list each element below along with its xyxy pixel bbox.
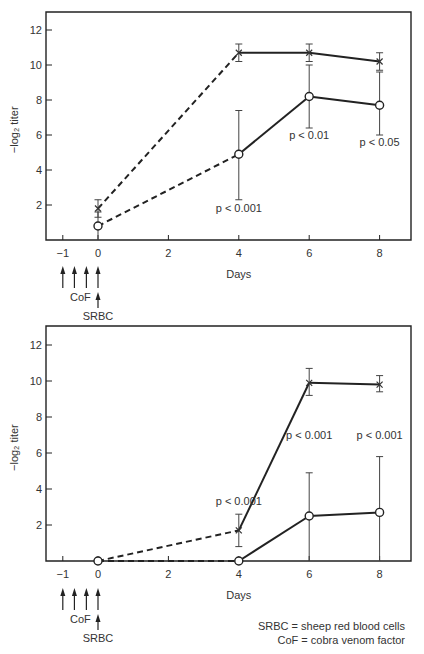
cof-label: CoF [70,613,91,625]
y-tick-label: 6 [36,447,42,459]
y-tick-label: 6 [36,129,42,141]
x-tick-label: 0 [95,247,101,259]
legend-cof: CoF = cobra venom factor [278,634,406,646]
circle-marker-icon [94,222,102,230]
series-line-cof [309,97,379,106]
cof-arrow-icon [96,266,101,274]
x-tick-label: −1 [57,247,70,259]
x-tick-label: 4 [236,568,242,580]
series-line-cof [239,516,309,561]
y-tick-label: 12 [30,339,42,351]
cof-arrow-icon [84,588,89,596]
circle-marker-icon [305,512,313,520]
srbc-arrow-icon [96,292,101,300]
y-tick-label: 10 [30,59,42,71]
circle-marker-icon [235,557,243,565]
cof-arrow-icon [84,266,89,274]
cof-label: CoF [70,291,91,303]
y-axis-label: −log₂ titer [8,106,20,153]
p-value-annotation: p < 0.001 [216,495,262,507]
srbc-label: SRBC [83,310,114,322]
x-tick-label: 8 [377,247,383,259]
y-tick-label: 10 [30,375,42,387]
p-value-annotation: p < 0.05 [360,136,400,148]
circle-marker-icon [376,508,384,516]
p-value-annotation: p < 0.001 [357,429,403,441]
y-axis-label: −log₂ titer [8,424,20,471]
y-tick-label: 4 [36,483,42,495]
y-tick-label: 8 [36,411,42,423]
x-tick-label: 2 [165,568,171,580]
p-value-annotation: p < 0.001 [216,202,262,214]
series-line-srbc [98,53,239,209]
x-tick-label: 8 [377,568,383,580]
y-tick-label: 2 [36,519,42,531]
cof-arrow-icon [72,266,77,274]
x-tick-label: 6 [306,568,312,580]
chart-panel-lower: 24681012−102468Days−log₂ titerp < 0.001p… [8,326,411,644]
circle-marker-icon [305,93,313,101]
circle-marker-icon [235,150,243,158]
chart-panel-upper: 24681012−102468Days−log₂ titerp < 0.001p… [8,12,411,322]
p-value-annotation: p < 0.001 [286,429,332,441]
series-line-srbc [309,53,379,62]
cof-arrow-icon [60,588,65,596]
plot-frame [46,326,411,561]
x-axis-label: Days [226,268,252,280]
cof-arrow-icon [96,588,101,596]
x-tick-label: −1 [57,568,70,580]
y-tick-label: 12 [30,24,42,36]
x-tick-label: 4 [236,247,242,259]
srbc-label: SRBC [83,632,114,644]
cof-arrow-icon [72,588,77,596]
p-value-annotation: p < 0.01 [289,129,329,141]
figure-canvas: 24681012−102468Days−log₂ titerp < 0.001p… [0,0,424,654]
series-line-cof [98,154,239,226]
circle-marker-icon [376,101,384,109]
x-axis-label: Days [226,589,252,601]
series-line-srbc [239,383,309,531]
series-line-srbc [309,383,379,385]
legend: SRBC = sheep red blood cellsCoF = cobra … [258,620,406,646]
y-tick-label: 2 [36,199,42,211]
cof-arrow-icon [60,266,65,274]
y-tick-label: 4 [36,164,42,176]
srbc-arrow-icon [96,614,101,622]
circle-marker-icon [94,557,102,565]
series-line-cof [309,512,379,516]
x-tick-label: 6 [306,247,312,259]
legend-srbc: SRBC = sheep red blood cells [258,620,406,632]
x-tick-label: 0 [95,568,101,580]
x-tick-label: 2 [165,247,171,259]
series-line-cof [239,97,309,155]
y-tick-label: 8 [36,94,42,106]
